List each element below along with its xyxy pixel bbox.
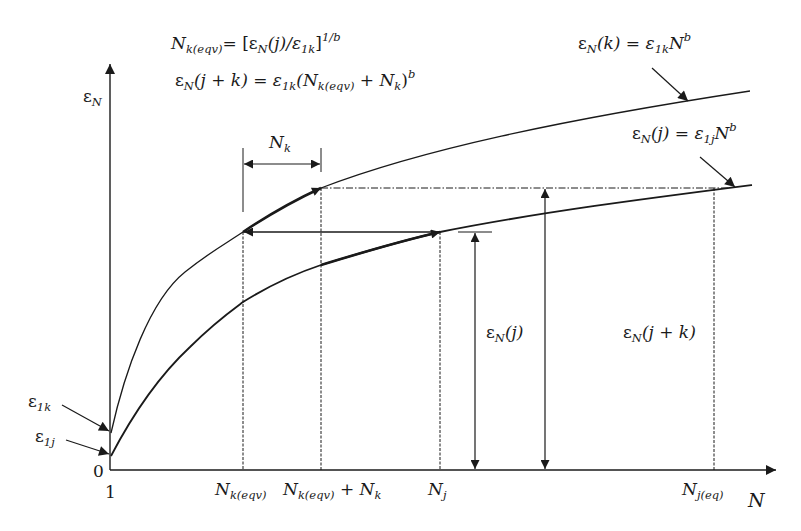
curve-k-a: ε <box>578 33 587 53</box>
path-segment-j <box>321 232 440 265</box>
eq2-lhs-b-sub: 1k <box>282 79 296 93</box>
tick1-suffix: + N <box>334 479 374 499</box>
curve-j-b-sub: 1j <box>704 132 715 146</box>
eps1j-sub: 1j <box>44 435 55 449</box>
label-curve-j: εN(j) = ε1jNb <box>632 122 737 146</box>
nk-text: N <box>269 132 284 152</box>
eps1j-text: ε <box>35 426 44 446</box>
eq1-rhs-b: (j)/ε <box>268 33 301 53</box>
eq1-rhs-a: = [ε <box>222 33 257 53</box>
tick-nj: Nj <box>428 481 446 502</box>
eq2-sup: b <box>408 67 415 81</box>
eq2-rhs-a-sub: k(eqv) <box>318 79 355 93</box>
curve-k-c: N <box>669 33 684 53</box>
eps-j-sub: N <box>495 331 505 345</box>
curve-k-sup: b <box>684 30 691 44</box>
x-axis-label: N <box>748 491 765 510</box>
eq1-rhs-a-sub: N <box>258 42 268 56</box>
eps1k-sub: 1k <box>37 400 51 414</box>
curve-j-c: N <box>714 123 729 143</box>
origin-label: 0 <box>93 463 104 480</box>
eps-j-suffix: (j) <box>505 322 524 342</box>
leader-eps1k <box>62 405 109 431</box>
eq2-rhs-c: ) <box>401 70 408 90</box>
diagram: Nk(eqv)= [εN(j)/ε1k]1/b εN(j + k) = ε1k(… <box>0 0 801 531</box>
tick1-text: N <box>283 479 298 499</box>
tick-nk-eqv-plus-nk: Nk(eqv) + Nk <box>283 481 381 502</box>
tick1-sub: k(eqv) <box>298 488 335 502</box>
y-label-text: ε <box>83 86 92 106</box>
eps-jk-sub: N <box>632 331 642 345</box>
equation-nk-eqv: Nk(eqv)= [εN(j)/ε1k]1/b <box>171 32 341 56</box>
intercept-eps1j: ε1j <box>35 428 55 449</box>
leader-curve-j <box>700 157 735 187</box>
tick-nj-eq: Nj(eq) <box>682 481 724 502</box>
eq1-sup: 1/b <box>322 30 341 44</box>
y-label-sub: N <box>92 95 102 109</box>
eq2-rhs-b: + N <box>354 70 394 90</box>
curve-j-a: ε <box>632 123 641 143</box>
path-segment-k <box>243 188 321 232</box>
curve-j-b: (j) = ε <box>651 123 704 143</box>
curve-k-b: (k) = ε <box>597 33 655 53</box>
label-eps-j: εN(j) <box>486 324 523 345</box>
curve-k-b-sub: 1k <box>655 42 669 56</box>
leader-curve-k <box>652 68 688 101</box>
curve-j-a-sub: N <box>641 132 651 146</box>
tick1-suffix-sub: k <box>374 488 381 502</box>
eq2-lhs: ε <box>175 70 184 90</box>
curve-k-a-sub: N <box>587 42 597 56</box>
eq2-rhs-a: (N <box>296 70 318 90</box>
eq1-rhs-b-sub: 1k <box>301 42 315 56</box>
tick3-sub: j(eq) <box>697 488 724 502</box>
nk-sub: k <box>284 141 291 155</box>
tick3-text: N <box>682 479 697 499</box>
eps-jk-text: ε <box>623 322 632 342</box>
tick2-text: N <box>428 479 443 499</box>
tick0-sub: k(eqv) <box>230 488 267 502</box>
eps-jk-suffix: (j + k) <box>642 322 696 342</box>
eps1k-text: ε <box>28 391 37 411</box>
leader-eps1j <box>66 440 109 454</box>
label-eps-jk: εN(j + k) <box>623 324 696 345</box>
x-start-label: 1 <box>105 484 116 501</box>
tick-nk-eqv: Nk(eqv) <box>215 481 266 502</box>
eps-j-text: ε <box>486 322 495 342</box>
eq1-lhs: N <box>171 33 186 53</box>
curve-j <box>111 185 752 456</box>
label-nk: Nk <box>269 134 291 155</box>
intercept-eps1k: ε1k <box>28 393 51 414</box>
eq1-rhs-c: ] <box>315 33 322 53</box>
curve-j-sup: b <box>729 120 736 134</box>
eq2-lhs-sub: N <box>184 79 194 93</box>
eq2-lhs-b: (j + k) = ε <box>194 70 282 90</box>
y-axis-label: εN <box>83 88 102 109</box>
equation-eps-jk: εN(j + k) = ε1k(Nk(eqv) + Nk)b <box>175 69 415 93</box>
tick0-text: N <box>215 479 230 499</box>
eq1-lhs-sub: k(eqv) <box>186 42 223 56</box>
tick2-sub: j <box>443 488 447 502</box>
label-curve-k: εN(k) = ε1kNb <box>578 32 691 56</box>
